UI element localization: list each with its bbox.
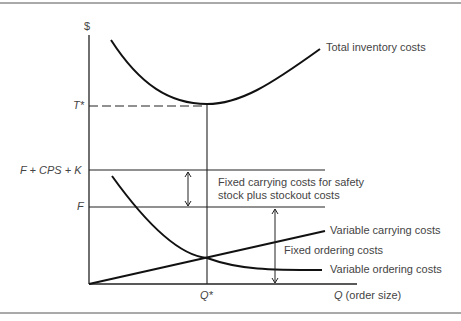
f-label: F <box>77 200 84 213</box>
total-inventory-costs-label: Total inventory costs <box>326 41 426 54</box>
fixed-carrying-label-line1: Fixed carrying costs for safety <box>218 176 364 189</box>
fcpsk-label: F + CPS + K <box>20 164 82 177</box>
x-axis-rest: (order size) <box>343 289 402 301</box>
y-axis-label: $ <box>84 20 90 33</box>
x-axis-label: Q (order size) <box>334 289 401 302</box>
fixed-carrying-label-line2: stock plus stockout costs <box>218 189 340 202</box>
x-axis-var: Q <box>334 289 343 301</box>
fixed-ordering-costs-label: Fixed ordering costs <box>284 244 383 257</box>
fixed-carrying-arrow <box>185 172 191 206</box>
fixed-ordering-arrow <box>272 209 278 283</box>
total-inventory-cost-curve <box>111 40 320 104</box>
variable-ordering-costs-label: Variable ordering costs <box>330 263 442 276</box>
q-star-label: Q* <box>200 289 213 302</box>
t-star-label: T* <box>73 99 84 112</box>
variable-carrying-costs-label: Variable carrying costs <box>330 224 440 237</box>
